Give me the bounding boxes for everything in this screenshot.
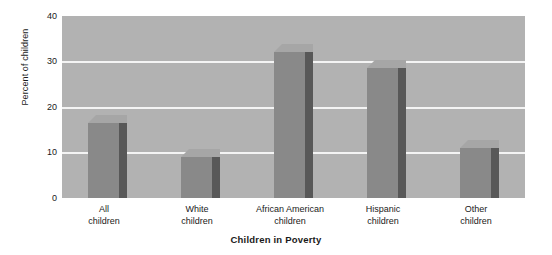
bar-top — [460, 140, 499, 148]
bar-side — [398, 60, 406, 198]
bar-top — [88, 115, 127, 123]
bar-top — [274, 44, 313, 52]
x-axis-title: Children in Poverty — [0, 234, 552, 245]
y-axis-title: Percent of children — [20, 0, 30, 142]
bar-side — [305, 44, 313, 198]
bar-front — [367, 68, 398, 198]
y-tick-40: 40 — [31, 12, 57, 21]
bar-top — [181, 149, 220, 157]
bar-side — [491, 140, 499, 198]
x-tick-other-children: Other children — [416, 203, 536, 227]
y-tick-20: 20 — [31, 103, 57, 112]
y-tick-0: 0 — [31, 194, 57, 203]
bar-side — [119, 115, 127, 198]
bar-front — [88, 123, 119, 198]
bar-front — [460, 148, 491, 198]
y-tick-30: 30 — [31, 57, 57, 66]
x-tick-line-1: Other — [416, 203, 536, 215]
bar-front — [274, 52, 305, 198]
bar-top — [367, 60, 406, 68]
plot-area — [62, 16, 525, 198]
y-tick-10: 10 — [31, 148, 57, 157]
bar-front — [181, 157, 212, 198]
bar-chart-figure: Percent of children 40 30 20 10 0 — [0, 0, 552, 255]
x-tick-line-2: children — [416, 215, 536, 227]
